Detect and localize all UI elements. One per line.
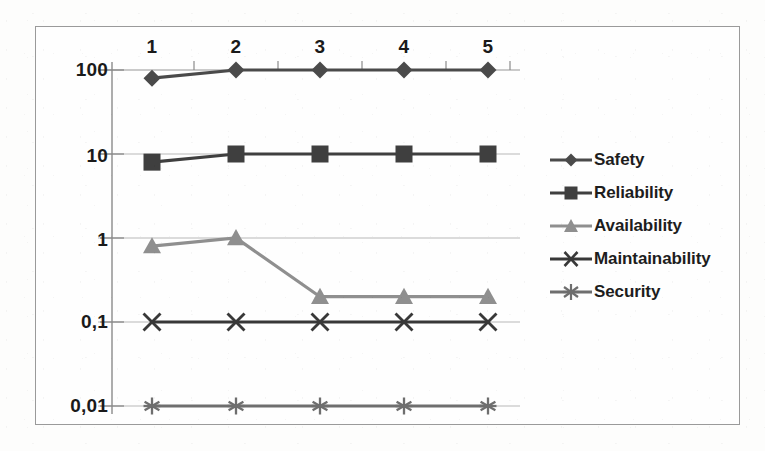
legend-label-security: Security: [594, 282, 660, 302]
square-marker-icon: [144, 154, 161, 171]
legend-label-reliability: Reliability: [594, 183, 673, 203]
asterisk-marker-icon: [548, 282, 594, 302]
legend-label-safety: Safety: [594, 150, 644, 170]
legend-item-safety[interactable]: Safety: [548, 143, 738, 176]
series-availability: [143, 229, 497, 304]
triangle-marker-icon: [548, 216, 594, 236]
chart-figure: 100 10 1 0,1 0,01 1 2 3 4 5 Safety R: [0, 0, 765, 451]
diamond-marker-icon: [312, 62, 329, 79]
legend-item-availability[interactable]: Availability: [548, 209, 738, 242]
diamond-marker-icon: [480, 62, 497, 79]
diamond-marker-icon: [396, 62, 413, 79]
series-maintainability: [144, 314, 497, 331]
diamond-marker-icon: [144, 70, 161, 87]
square-marker-icon: [396, 146, 413, 163]
legend-item-reliability[interactable]: Reliability: [548, 176, 738, 209]
chart-legend: Safety Reliability Availability: [548, 143, 738, 308]
diamond-marker-icon: [228, 62, 245, 79]
square-marker-icon: [480, 146, 497, 163]
y-tick-label-0-1: 0,1: [46, 311, 108, 333]
legend-label-maintainability: Maintainability: [594, 249, 711, 269]
x-tick-label-3: 3: [315, 36, 326, 58]
y-tick-label-10: 10: [46, 145, 108, 167]
diamond-marker-icon: [548, 150, 594, 170]
x-marker-icon: [548, 249, 594, 269]
x-tick-label-5: 5: [483, 36, 494, 58]
square-marker-icon: [312, 146, 329, 163]
x-tick-label-2: 2: [231, 36, 242, 58]
y-tick-label-0-01: 0,01: [42, 395, 108, 417]
series-reliability: [144, 146, 497, 171]
series-safety: [144, 62, 497, 87]
y-tick-label-100: 100: [46, 59, 108, 81]
x-tick-label-1: 1: [147, 36, 158, 58]
legend-label-availability: Availability: [594, 216, 682, 236]
legend-item-security[interactable]: Security: [548, 275, 738, 308]
legend-item-maintainability[interactable]: Maintainability: [548, 242, 738, 275]
series-security: [144, 398, 497, 415]
square-marker-icon: [228, 146, 245, 163]
x-tick-label-4: 4: [399, 36, 410, 58]
square-marker-icon: [548, 183, 594, 203]
y-tick-label-1: 1: [46, 229, 108, 251]
